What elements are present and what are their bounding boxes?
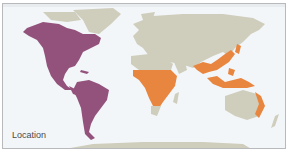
land-madagascar <box>173 92 179 104</box>
land-arctic-canada <box>43 12 81 22</box>
land-antarctica <box>59 142 253 149</box>
region-southeast-asia-islands <box>207 76 255 88</box>
region-philippines <box>228 68 235 76</box>
map-frame: Location <box>2 3 286 149</box>
land-south-africa <box>151 106 161 116</box>
land-arabia <box>173 60 187 74</box>
world-map <box>3 4 286 149</box>
map-caption: Location <box>12 130 46 140</box>
region-sub-saharan-africa <box>133 70 177 108</box>
region-caribbean <box>80 70 89 74</box>
region-north-america <box>23 22 101 90</box>
land-new-zealand <box>271 114 279 128</box>
region-south-america <box>73 80 109 140</box>
land-greenland <box>73 8 121 34</box>
